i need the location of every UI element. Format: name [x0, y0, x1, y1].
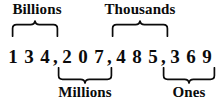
overbrace-thousands-icon — [111, 20, 169, 37]
period-label-thousands: Thousands — [100, 2, 180, 17]
digit-group-billions: 1 3 4 , — [5, 47, 59, 66]
digit: 3 — [167, 47, 183, 66]
digit: 6 — [183, 47, 199, 66]
digit-group-ones: 3 6 9 — [167, 47, 215, 66]
period-label-ones: Ones — [162, 85, 216, 100]
digit: 8 — [129, 47, 145, 66]
digit-group-thousands: 4 8 5 , — [113, 47, 167, 66]
digit: 3 — [21, 47, 37, 66]
digit: 4 — [37, 47, 53, 66]
digit: 2 — [59, 47, 75, 66]
digit: 9 — [199, 47, 215, 66]
digit-group-millions: 2 0 7 , — [59, 47, 113, 66]
digit: 0 — [75, 47, 91, 66]
place-value-chart: Billions Thousands 1 3 4 , 2 0 7 , 4 8 5 — [0, 0, 220, 107]
digit: 4 — [113, 47, 129, 66]
overbrace-billions-icon — [11, 20, 59, 37]
digit: 7 — [91, 47, 107, 66]
underbrace-millions-icon — [57, 67, 113, 84]
underbrace-ones-icon — [162, 67, 216, 84]
period-label-billions: Billions — [8, 2, 66, 17]
digit: 1 — [5, 47, 21, 66]
period-label-millions: Millions — [52, 85, 118, 100]
digit: 5 — [145, 47, 161, 66]
number-display: 1 3 4 , 2 0 7 , 4 8 5 , 3 6 9 — [0, 44, 220, 68]
